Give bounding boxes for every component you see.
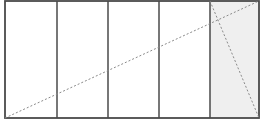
column-dividers	[57, 1, 210, 118]
partitioned-rectangle-diagram	[0, 0, 260, 126]
shaded-column	[210, 1, 259, 118]
